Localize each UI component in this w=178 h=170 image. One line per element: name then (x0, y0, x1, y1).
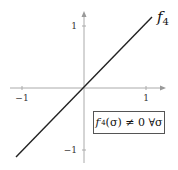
x-axis-arrow-icon (160, 86, 166, 91)
y-tick-label-1: 1 (71, 21, 77, 31)
x-tick-label-neg1: −1 (15, 93, 28, 103)
y-axis-arrow-icon (82, 11, 87, 17)
annotation-rest: (σ) ≠ 0 ∀σ (106, 116, 163, 129)
x-tick-label-1: 1 (143, 93, 149, 103)
series-label-sub: 4 (163, 16, 169, 27)
y-tick-label-neg1: −1 (64, 145, 77, 155)
annotation-box: f′4(σ) ≠ 0 ∀σ (93, 111, 165, 134)
series-f4-label: f4 (156, 8, 169, 27)
plot-area: −1 1 1 −1 f4 (0, 0, 178, 170)
